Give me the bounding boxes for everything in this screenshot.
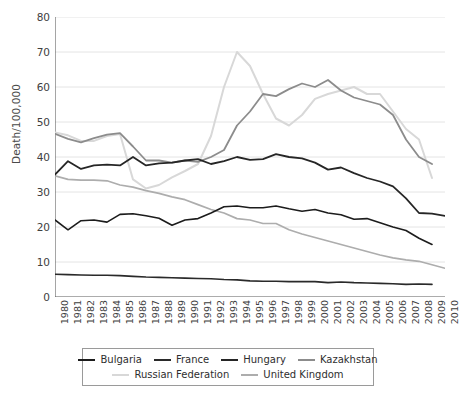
x-tick-label: 2003: [358, 300, 369, 324]
x-tick-label: 1995: [254, 300, 265, 324]
y-tick-label: 10: [26, 256, 50, 268]
y-tick-label: 20: [26, 221, 50, 233]
legend-row: Russian FederationUnited Kingdom: [87, 369, 369, 380]
x-tick-label: 1987: [150, 300, 161, 324]
x-tick-label: 1984: [111, 300, 122, 324]
y-tick-label: 40: [26, 151, 50, 163]
x-tick-label: 1992: [215, 300, 226, 324]
x-tick-label: 1983: [98, 300, 109, 324]
series-line: [55, 274, 432, 284]
legend-label: Hungary: [243, 354, 286, 365]
y-axis-title: Death/100,000: [10, 64, 22, 184]
y-tick-label: 30: [26, 186, 50, 198]
x-tick-label: 1990: [189, 300, 200, 324]
plot-svg: [55, 17, 445, 297]
x-tick-label: 2008: [423, 300, 434, 324]
x-tick-label: 1999: [306, 300, 317, 324]
x-tick-label: 1982: [85, 300, 96, 324]
x-tick-label: 1994: [241, 300, 252, 324]
series-line: [55, 154, 445, 216]
x-tick-label: 2009: [436, 300, 447, 324]
series-line: [55, 52, 432, 189]
x-tick-label: 2010: [449, 300, 460, 324]
x-tick-label: 1981: [72, 300, 83, 324]
legend-item-united-kingdom[interactable]: United Kingdom: [241, 369, 343, 380]
y-tick-label: 0: [26, 291, 50, 303]
x-tick-label: 2000: [319, 300, 330, 324]
x-tick-label: 1997: [280, 300, 291, 324]
x-tick-label: 2004: [371, 300, 382, 324]
legend-swatch-icon: [78, 359, 95, 361]
y-axis-tick-labels: 01020304050607080: [22, 0, 50, 400]
x-axis-tick-labels: 1980198119821983198419851986198719881989…: [55, 300, 455, 345]
legend-swatch-icon: [221, 359, 238, 361]
x-tick-label: 1993: [228, 300, 239, 324]
legend-label: Russian Federation: [134, 369, 229, 380]
legend-swatch-icon: [112, 374, 129, 376]
x-tick-label: 2007: [410, 300, 421, 324]
series-line: [55, 206, 432, 245]
legend-swatch-icon: [298, 359, 315, 361]
y-tick-label: 80: [26, 11, 50, 23]
x-tick-label: 1996: [267, 300, 278, 324]
x-tick-label: 1988: [163, 300, 174, 324]
x-tick-label: 1998: [293, 300, 304, 324]
plot-area: [55, 17, 445, 297]
x-tick-label: 2001: [332, 300, 343, 324]
legend-item-russian-federation[interactable]: Russian Federation: [112, 369, 229, 380]
x-tick-label: 1991: [202, 300, 213, 324]
legend-label: France: [176, 354, 209, 365]
legend-item-hungary[interactable]: Hungary: [221, 354, 286, 365]
legend-swatch-icon: [241, 374, 258, 376]
chart-legend: BulgariaFranceHungaryKazakhstanRussian F…: [82, 348, 374, 386]
legend-label: Kazakhstan: [320, 354, 378, 365]
series-line: [55, 176, 445, 268]
legend-label: United Kingdom: [263, 369, 343, 380]
y-tick-label: 70: [26, 46, 50, 58]
x-tick-label: 1980: [59, 300, 70, 324]
x-tick-label: 2006: [397, 300, 408, 324]
x-tick-label: 1989: [176, 300, 187, 324]
x-tick-label: 1985: [124, 300, 135, 324]
legend-item-bulgaria[interactable]: Bulgaria: [78, 354, 141, 365]
legend-item-kazakhstan[interactable]: Kazakhstan: [298, 354, 378, 365]
legend-item-france[interactable]: France: [154, 354, 209, 365]
legend-label: Bulgaria: [100, 354, 141, 365]
x-tick-label: 1986: [137, 300, 148, 324]
x-tick-label: 2005: [384, 300, 395, 324]
x-tick-label: 2002: [345, 300, 356, 324]
legend-swatch-icon: [154, 359, 171, 361]
legend-row: BulgariaFranceHungaryKazakhstan: [87, 354, 369, 365]
y-tick-label: 60: [26, 81, 50, 93]
y-tick-label: 50: [26, 116, 50, 128]
